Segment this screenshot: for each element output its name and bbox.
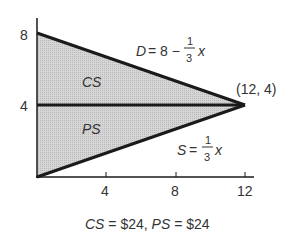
svg-text:CS = $24, PS: CS = $24, PS = $24 (85, 216, 210, 232)
svg-text:D: D (136, 43, 146, 59)
demand-equation: D = 8 − 1 3 x (136, 35, 206, 64)
svg-text:S: S (177, 142, 187, 158)
svg-text:x: x (214, 142, 223, 158)
y-tick-label-4: 4 (20, 98, 28, 114)
surplus-diagram: 8 4 4 8 12 CS PS D = 8 − 1 3 x (12, 4) S… (0, 0, 301, 238)
svg-text:3: 3 (186, 52, 192, 64)
svg-text:1: 1 (187, 35, 193, 47)
cs-label: CS (82, 74, 102, 90)
caption: CS = $24, PS = $24 (85, 216, 210, 232)
ps-label: PS (82, 121, 101, 137)
svg-text:= 8 −: = 8 − (148, 43, 180, 59)
x-tick-label-4: 4 (101, 183, 109, 199)
svg-text:=: = (189, 142, 197, 158)
svg-text:x: x (197, 43, 206, 59)
equilibrium-point-label: (12, 4) (236, 81, 276, 97)
x-tick-label-8: 8 (171, 183, 179, 199)
svg-text:1: 1 (205, 134, 211, 146)
x-tick-label-12: 12 (237, 183, 253, 199)
svg-text:3: 3 (204, 151, 210, 163)
y-tick-label-8: 8 (20, 27, 28, 43)
supply-equation: S = 1 3 x (177, 134, 223, 163)
